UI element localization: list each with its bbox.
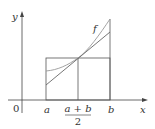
y-axis-arrow <box>20 11 24 17</box>
x-axis-arrow <box>142 98 148 102</box>
tick-label-midpoint-numerator: a + b <box>64 103 91 114</box>
x-axis-label: x <box>140 104 146 115</box>
tick-label-midpoint-denominator: 2 <box>75 116 81 127</box>
origin-label: 0 <box>13 103 19 114</box>
function-label: f <box>92 23 99 34</box>
y-axis-label: y <box>11 11 18 22</box>
tick-label-b: b <box>108 104 114 115</box>
midpoint-rule-diagram: y x 0 a a + b 2 b f <box>0 0 155 129</box>
tick-label-a: a <box>44 104 50 115</box>
